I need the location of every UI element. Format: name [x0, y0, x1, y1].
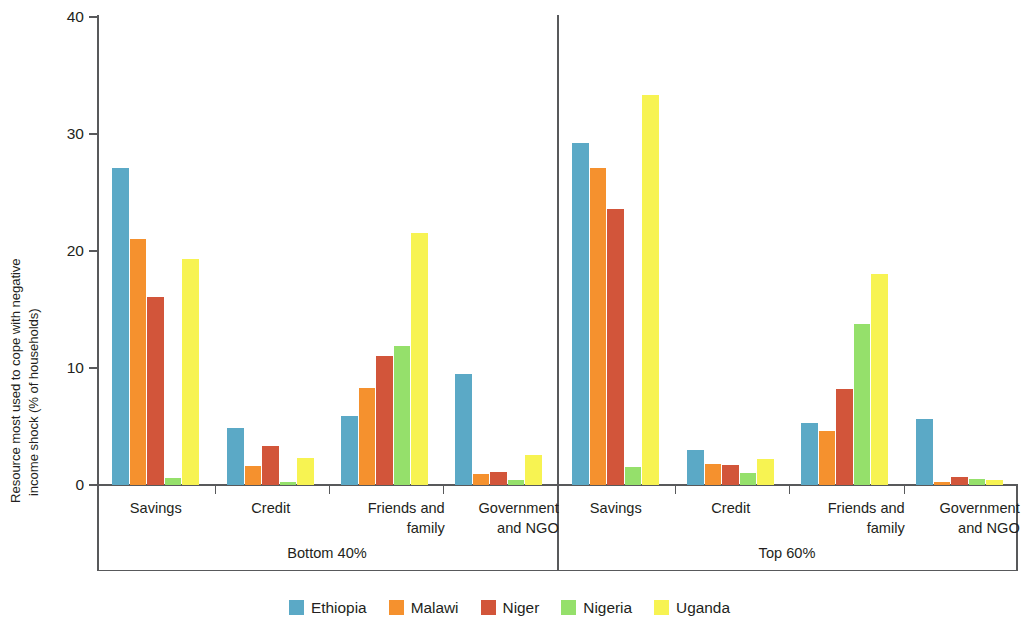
- bar-nigeria: [394, 346, 411, 485]
- x-category-label: Savings: [550, 498, 682, 518]
- x-tick-mark: [329, 484, 330, 494]
- y-tick-label: 40: [48, 9, 84, 25]
- bar-niger: [376, 356, 393, 485]
- x-category-label-line: Savings: [90, 498, 222, 518]
- legend-item[interactable]: Ethiopia: [289, 600, 367, 615]
- bar-niger: [951, 477, 968, 485]
- x-category-label: Friends andfamily: [319, 498, 451, 538]
- bar-nigeria: [969, 479, 986, 485]
- bar-uganda: [411, 233, 428, 485]
- x-category-label-line: Government: [433, 498, 559, 518]
- x-category-label-line: Government: [894, 498, 1020, 518]
- x-category-label-line: family: [319, 518, 445, 538]
- bar-malawi: [130, 239, 147, 485]
- x-tick-mark: [675, 484, 676, 494]
- bar-ethiopia: [572, 143, 589, 485]
- group-band-bottom: [97, 570, 1018, 571]
- y-tick-label: 30: [48, 126, 84, 142]
- x-category-label-line: Credit: [665, 498, 797, 518]
- y-tick-label: 20: [48, 243, 84, 259]
- x-category-label-line: Credit: [205, 498, 337, 518]
- y-axis-tick-labels: 403020100: [40, 0, 84, 500]
- bar-uganda: [525, 455, 542, 485]
- x-category-label: Governmentand NGO: [894, 498, 1025, 538]
- x-category-label-line: Friends and: [779, 498, 905, 518]
- bar-ethiopia: [455, 374, 472, 485]
- bar-nigeria: [740, 473, 757, 485]
- bars-layer: [97, 17, 1017, 485]
- legend-label: Ethiopia: [311, 600, 367, 615]
- bar-uganda: [642, 95, 659, 485]
- bar-malawi: [705, 464, 722, 485]
- legend-swatch-icon: [289, 600, 304, 615]
- y-axis-title-line-1: Resource most used to cope with negative: [8, 13, 26, 503]
- bar-ethiopia: [801, 423, 818, 485]
- x-tick-mark: [215, 484, 216, 494]
- bar-malawi: [245, 466, 262, 485]
- legend-label: Niger: [503, 600, 540, 615]
- legend-swatch-icon: [654, 600, 669, 615]
- x-category-label-line: and NGO: [894, 518, 1020, 538]
- bar-nigeria: [280, 482, 297, 486]
- x-category-label-line: Friends and: [319, 498, 445, 518]
- bar-ethiopia: [687, 450, 704, 485]
- legend-swatch-icon: [389, 600, 404, 615]
- bar-ethiopia: [227, 428, 244, 485]
- legend-item[interactable]: Niger: [481, 600, 540, 615]
- legend-label: Malawi: [411, 600, 459, 615]
- bar-niger: [490, 472, 507, 485]
- x-category-label: Credit: [665, 498, 797, 518]
- bar-uganda: [757, 459, 774, 485]
- legend-label: Nigeria: [583, 600, 632, 615]
- bar-ethiopia: [916, 419, 933, 485]
- x-tick-mark: [443, 484, 444, 494]
- legend-label: Uganda: [676, 600, 730, 615]
- x-category-label: Savings: [90, 498, 222, 518]
- legend-swatch-icon: [481, 600, 496, 615]
- x-category-label-line: and NGO: [433, 518, 559, 538]
- x-category-label: Governmentand NGO: [433, 498, 565, 538]
- bar-niger: [147, 297, 164, 485]
- chart-legend: EthiopiaMalawiNigerNigeriaUganda: [0, 596, 1019, 619]
- bar-uganda: [986, 480, 1003, 485]
- bar-niger: [262, 446, 279, 485]
- bar-uganda: [297, 458, 314, 485]
- bar-niger: [836, 389, 853, 485]
- x-tick-mark: [904, 484, 905, 494]
- bar-nigeria: [854, 324, 871, 485]
- bar-ethiopia: [341, 416, 358, 485]
- bar-malawi: [473, 474, 490, 485]
- y-tick-label: 0: [48, 477, 84, 493]
- bar-ethiopia: [112, 168, 129, 485]
- bar-uganda: [871, 274, 888, 485]
- panel-label-bottom: Bottom 40%: [217, 545, 437, 561]
- panel-label-top: Top 60%: [677, 545, 897, 561]
- x-category-label: Friends andfamily: [779, 498, 911, 538]
- x-category-label: Credit: [205, 498, 337, 518]
- x-category-label-line: Savings: [550, 498, 682, 518]
- bar-nigeria: [625, 467, 642, 485]
- bar-niger: [607, 209, 624, 485]
- legend-item[interactable]: Nigeria: [561, 600, 632, 615]
- legend-item[interactable]: Uganda: [654, 600, 730, 615]
- bar-uganda: [182, 259, 199, 485]
- bar-malawi: [359, 388, 376, 485]
- bar-nigeria: [165, 478, 182, 485]
- y-tick-label: 10: [48, 360, 84, 376]
- plot-area: [97, 17, 1017, 485]
- x-category-label-line: family: [779, 518, 905, 538]
- bar-niger: [722, 465, 739, 485]
- bar-malawi: [934, 482, 951, 486]
- bar-malawi: [819, 431, 836, 485]
- bar-malawi: [590, 168, 607, 485]
- legend-swatch-icon: [561, 600, 576, 615]
- legend-item[interactable]: Malawi: [389, 600, 459, 615]
- bar-nigeria: [508, 480, 525, 485]
- x-tick-mark: [789, 484, 790, 494]
